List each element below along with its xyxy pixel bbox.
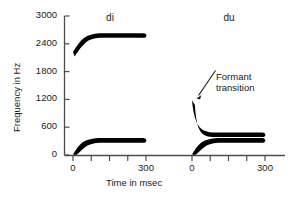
y-tick-label-1800: 1800 [25, 66, 57, 77]
formant-traces-di [73, 33, 146, 155]
y-axis-title: Frequency in Hz [12, 63, 23, 132]
trace-du-f1 [192, 138, 265, 155]
x-tick-marks-panel-di [73, 156, 146, 162]
trace-du-f2 [192, 100, 265, 137]
panel-title-du: du [209, 12, 249, 23]
panel-title-di: di [90, 12, 130, 23]
y-tick-label-3000: 3000 [25, 10, 57, 21]
formant-traces-du [192, 100, 265, 155]
spectrogram-figure: 3000 2400 1800 1200 600 0 Frequency in H… [0, 0, 294, 199]
trace-di-f2 [73, 33, 146, 56]
x-axis-title: Time in msec [106, 178, 162, 189]
formant-transition-line1: Formant [216, 71, 255, 82]
y-tick-label-0: 0 [25, 149, 57, 160]
x-tick-label-di-0: 0 [58, 163, 88, 174]
y-tick-marks [65, 16, 70, 155]
y-tick-label-600: 600 [25, 121, 57, 132]
formant-transition-line2: transition [216, 82, 255, 93]
y-tick-label-2400: 2400 [25, 38, 57, 49]
x-tick-label-du-300: 300 [250, 163, 280, 174]
x-tick-label-di-300: 300 [131, 163, 161, 174]
y-tick-label-1200: 1200 [25, 93, 57, 104]
formant-transition-label: Formant transition [216, 71, 255, 94]
formant-transition-arrow [197, 71, 216, 100]
x-tick-marks-panel-du [192, 156, 265, 162]
trace-di-f1 [73, 138, 146, 155]
x-tick-label-du-0: 0 [177, 163, 207, 174]
